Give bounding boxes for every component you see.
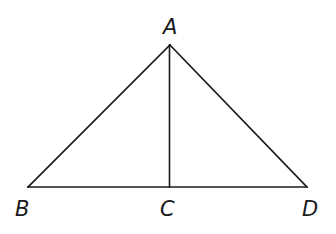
segments <box>28 45 307 187</box>
segment-ab <box>28 45 170 187</box>
triangle-diagram: A B C D <box>0 0 336 234</box>
label-a: A <box>161 15 177 39</box>
label-d: D <box>302 197 318 221</box>
vertex-labels: A B C D <box>15 15 318 221</box>
label-c: C <box>160 197 175 221</box>
label-b: B <box>15 197 29 221</box>
segment-ad <box>170 45 307 187</box>
